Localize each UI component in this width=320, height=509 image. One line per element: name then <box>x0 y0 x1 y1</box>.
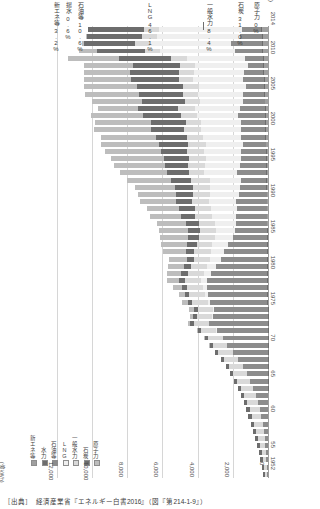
bar-row <box>204 336 269 341</box>
annotation-value: 8.4% <box>206 28 212 52</box>
bar-row <box>262 465 268 470</box>
bar-segment <box>147 206 180 211</box>
bar-segment <box>84 77 130 82</box>
legend-swatch <box>73 460 79 466</box>
bar-segment <box>235 49 263 54</box>
annotation-6: 原子力0% <box>252 2 259 46</box>
bar-segment <box>111 156 164 161</box>
bar-segment <box>159 142 187 147</box>
bar-segment <box>233 350 268 355</box>
bar-segment <box>168 264 183 269</box>
bar-segment <box>240 185 267 190</box>
legend-item[interactable]: LNG <box>62 408 71 466</box>
bar-segment <box>267 199 268 204</box>
bar-segment <box>142 99 185 104</box>
bar-segment <box>263 49 268 54</box>
bar-segment <box>213 314 268 319</box>
bar-segment <box>267 178 268 183</box>
annotation-0: 新エネ等3.2% <box>52 2 59 46</box>
bar-segment <box>224 357 238 362</box>
bar-segment <box>266 450 268 455</box>
annotation-label: 原子力 <box>253 2 259 20</box>
bar-segment <box>131 77 180 82</box>
bar-row <box>68 56 268 61</box>
bar-segment <box>167 170 188 175</box>
bar-segment <box>114 163 165 168</box>
bar-segment <box>214 307 267 312</box>
year-tick-label: 60 <box>270 406 276 413</box>
legend-item[interactable]: 一般水力 <box>72 408 81 466</box>
bar-segment <box>84 63 133 68</box>
annotation-value: 0.6% <box>65 16 71 40</box>
bar-row <box>251 422 268 427</box>
year-tick-label: 70 <box>270 334 276 341</box>
bar-segment <box>171 178 191 183</box>
legend-item[interactable]: 石炭 <box>83 408 92 466</box>
chart-legend: 新エネ等水力石油等LNG一般水力石炭原子力 <box>30 408 108 468</box>
bar-segment <box>240 163 266 168</box>
legend-item[interactable]: 石油等 <box>51 408 60 466</box>
bar-segment <box>216 228 235 233</box>
annotation-value: 46.1% <box>147 22 153 52</box>
bar-segment <box>171 56 187 61</box>
bar-segment <box>197 113 238 118</box>
bar-segment <box>157 221 185 226</box>
annotation-label: 新エネ等 <box>53 2 59 26</box>
bar-segment <box>138 192 176 197</box>
bar-segment <box>101 135 157 140</box>
bar-row <box>140 199 268 204</box>
bar-segment <box>208 336 223 341</box>
legend-item[interactable]: 新エネ等 <box>30 408 39 466</box>
annotation-label: LNG <box>147 2 153 20</box>
bar-segment <box>143 113 181 118</box>
x-tick-label: 2,000 <box>224 462 230 477</box>
bar-segment <box>264 56 268 61</box>
bar-segment <box>95 120 151 125</box>
bar-row <box>189 307 268 312</box>
bar-row <box>188 321 268 326</box>
bar-segment <box>137 84 183 89</box>
x-tick-label: 12,000 <box>48 462 54 480</box>
bar-segment <box>186 249 195 254</box>
bar-row <box>263 472 268 477</box>
legend-swatch <box>31 460 37 466</box>
legend-label: 新エネ等 <box>30 435 36 459</box>
legend-swatch <box>94 460 100 466</box>
bar-segment <box>204 170 237 175</box>
bar-row <box>114 163 269 168</box>
bar-segment <box>193 192 210 197</box>
bar-segment <box>265 84 268 89</box>
legend-item[interactable]: 水力 <box>41 408 50 466</box>
bar-segment <box>173 285 183 290</box>
bar-row <box>230 371 268 376</box>
bar-segment <box>236 199 266 204</box>
bar-segment <box>204 271 211 276</box>
bar-segment <box>187 242 197 247</box>
bar-segment <box>194 249 210 254</box>
legend-item[interactable]: 原子力 <box>93 408 102 466</box>
bar-segment <box>264 63 268 68</box>
bar-row <box>244 400 268 405</box>
bar-segment <box>241 127 266 132</box>
bar-segment <box>210 185 240 190</box>
bar-segment <box>160 49 234 54</box>
bar-segment <box>187 56 246 61</box>
bar-row <box>167 271 268 276</box>
bar-segment <box>243 142 266 147</box>
x-tick-label: 0 <box>259 462 265 465</box>
annotation-leader-line <box>203 22 204 30</box>
bar-segment <box>201 328 216 333</box>
bar-segment <box>210 178 241 183</box>
bar-segment <box>120 170 167 175</box>
legend-label: 原子力 <box>93 441 99 459</box>
bar-segment <box>267 472 268 477</box>
bar-segment <box>197 242 213 247</box>
bar-row <box>85 92 268 97</box>
legend-label: 一般水力 <box>72 435 78 459</box>
bar-segment <box>188 228 200 233</box>
bar-segment <box>151 120 186 125</box>
bar-segment <box>250 407 260 412</box>
bar-segment <box>207 278 268 283</box>
bar-segment <box>265 436 268 441</box>
bar-segment <box>140 199 176 204</box>
